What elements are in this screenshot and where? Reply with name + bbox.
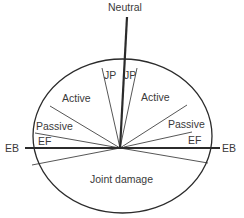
jp-left-label: JP: [104, 70, 116, 81]
active-left-label: Active: [62, 93, 91, 104]
eb-left-label: EB: [5, 143, 19, 154]
passive-right-label: Passive: [168, 119, 205, 130]
eb-right-label: EB: [222, 143, 236, 154]
passive-ef-right-line: [124, 132, 192, 147]
joint-damage-right-line: [120, 148, 208, 163]
active-right-label: Active: [141, 92, 170, 103]
range-of-motion-diagram: Neutral JP JP Active Active Passive Pass…: [0, 0, 244, 218]
neutral-label: Neutral: [108, 2, 142, 13]
ef-left-label: EF: [38, 136, 51, 147]
passive-left-label: Passive: [36, 121, 73, 132]
diagram-graphic: [0, 0, 244, 218]
joint-damage-label: Joint damage: [90, 174, 153, 185]
neutral-axis: [120, 17, 127, 149]
joint-damage-left-line: [32, 148, 120, 165]
jp-right-label: JP: [124, 70, 136, 81]
ef-right-label: EF: [188, 135, 201, 146]
